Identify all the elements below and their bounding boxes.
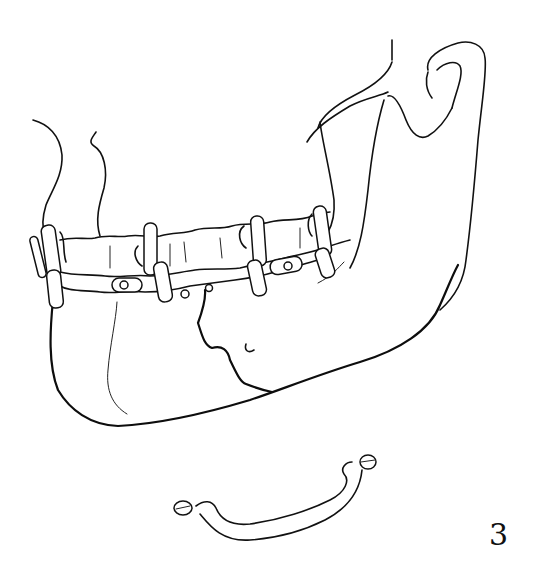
bar-plate-1	[112, 278, 142, 292]
maxilla-outline	[33, 120, 106, 236]
bar-plate-2	[269, 255, 303, 275]
mental-foramen	[245, 344, 254, 352]
clamp-1	[29, 224, 66, 308]
fracture-line	[198, 290, 272, 392]
mandible-drawing	[0, 0, 535, 573]
dental-arch	[60, 212, 350, 293]
fixation-clamps	[29, 205, 336, 308]
connector-bar	[174, 455, 376, 540]
figure-number: 3	[489, 520, 508, 550]
medical-illustration: 3	[0, 0, 535, 573]
clamp-3	[240, 216, 268, 297]
